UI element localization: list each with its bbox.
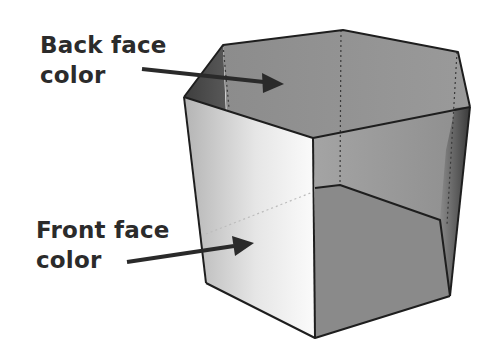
hexagonal-prism-illustration [0, 0, 496, 362]
